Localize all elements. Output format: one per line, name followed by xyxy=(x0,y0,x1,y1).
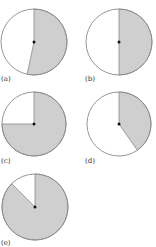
panel-label-d: (d) xyxy=(85,157,95,165)
center-dot-icon xyxy=(118,123,121,126)
center-dot-icon xyxy=(33,41,36,44)
panel-label-c: (c) xyxy=(1,157,10,165)
panel-label-b: (b) xyxy=(85,75,95,83)
center-dot-icon xyxy=(118,41,121,44)
shaded-sector xyxy=(119,9,152,75)
pie-panel-b xyxy=(86,9,152,75)
center-dot-icon xyxy=(34,206,37,209)
pie-panel-c xyxy=(2,92,66,156)
pie-panel-d xyxy=(87,92,151,156)
pie-panel-e xyxy=(2,174,68,240)
pie-panels-svg xyxy=(0,0,156,247)
panel-label-e: (e) xyxy=(1,239,11,247)
center-dot-icon xyxy=(33,123,36,126)
panel-label-a: (a) xyxy=(1,75,11,83)
pie-panel-a xyxy=(1,9,67,75)
